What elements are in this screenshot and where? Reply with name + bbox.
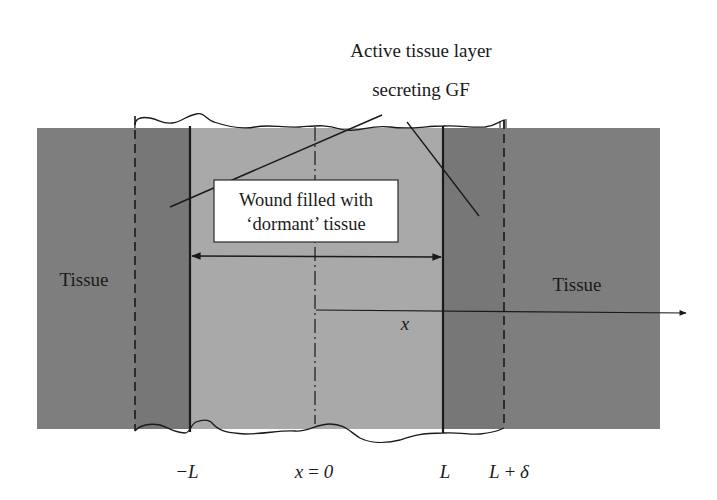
label-L: L (439, 461, 451, 482)
wound-label-line2: ‘dormant’ tissue (246, 214, 365, 234)
label-minus-L: −L (175, 461, 198, 482)
left-tissue-label: Tissue (60, 269, 109, 290)
x-axis-label: x (400, 313, 410, 334)
wound-region (191, 128, 443, 429)
active-layer-left (135, 128, 190, 429)
wound-width-arrow (192, 256, 441, 257)
active-layer-right (443, 128, 504, 429)
wound-healing-diagram: Wound filled with ‘dormant’ tissue Activ… (0, 0, 717, 500)
label-x-equals-0: x = 0 (294, 461, 334, 482)
right-tissue-label: Tissue (553, 274, 602, 295)
callout-line1: Active tissue layer (350, 40, 492, 61)
callout-line2: secreting GF (372, 79, 470, 100)
wound-label-line1: Wound filled with (239, 190, 373, 210)
label-L-plus-delta: L + δ (488, 461, 530, 482)
